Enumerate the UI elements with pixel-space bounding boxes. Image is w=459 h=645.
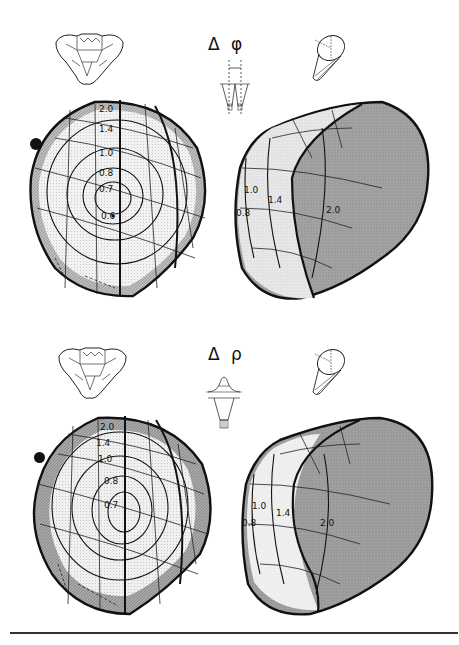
contour-label: 1.0 (244, 185, 259, 195)
head-frontal-icon (55, 346, 130, 402)
contour-label: 0.7 (104, 500, 118, 510)
contour-label: 1.4 (268, 195, 283, 205)
contour-label: 2.0 (99, 104, 114, 114)
head-lateral-icon (305, 346, 350, 402)
contour-label: 2.0 (100, 422, 115, 432)
contour-label: 0.8 (236, 208, 251, 218)
contour-label: 1.4 (99, 124, 114, 134)
contour-label: 0.8 (242, 518, 257, 528)
head-lateral-icon (305, 32, 350, 88)
delta-rho-symbol: Δ ρ (208, 344, 245, 364)
contour-label: 2.0 (320, 518, 335, 528)
delta-phi-symbol: Δ φ (208, 34, 245, 54)
contour-label: 0.8 (104, 476, 119, 486)
head-frontal-icon (52, 32, 127, 88)
contour-label: 1.0 (252, 501, 267, 511)
frontal-contour-map: 2.0 1.4 1.0 0.8 0.7 0.6 (25, 98, 215, 298)
contour-label: 1.4 (96, 438, 111, 448)
bottom-divider-rule (10, 632, 458, 634)
contour-label: 1.0 (99, 148, 114, 158)
contour-label: 1.4 (276, 508, 291, 518)
contour-label: 1.0 (98, 454, 113, 464)
lateral-contour-map: 1.0 0.8 1.4 2.0 (232, 98, 432, 303)
frontal-contour-map: 2.0 1.4 1.0 0.8 0.7 (28, 414, 218, 619)
contour-label: 0.8 (99, 168, 114, 178)
contour-label: 2.0 (326, 205, 341, 215)
lateral-contour-map: 1.0 0.8 1.4 2.0 (240, 414, 440, 619)
contour-label: 0.7 (99, 184, 113, 194)
contour-label: 0.6 (101, 211, 116, 221)
